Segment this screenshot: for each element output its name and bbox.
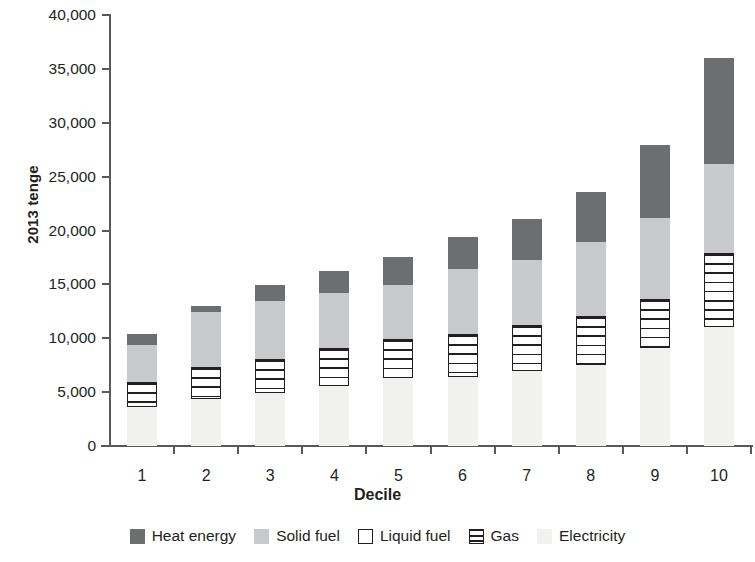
x-axis-tick: [430, 446, 432, 454]
bar-segment-gas[interactable]: [191, 367, 221, 398]
bar-column[interactable]: [319, 271, 349, 446]
x-axis-tick: [365, 446, 367, 454]
legend-item-solid-fuel[interactable]: Solid fuel: [254, 527, 340, 545]
legend-swatch-icon: [254, 529, 269, 544]
bar-segment-solid-fuel[interactable]: [383, 285, 413, 339]
bar-column[interactable]: [576, 192, 606, 446]
x-axis-tick-label: 9: [623, 467, 687, 485]
y-axis-tick: [102, 391, 110, 393]
x-axis-tick: [173, 446, 175, 454]
y-axis-tick-label: 10,000: [16, 330, 96, 346]
bar-segment-solid-fuel[interactable]: [512, 260, 542, 326]
x-axis-tick: [622, 446, 624, 454]
x-axis-tick: [301, 446, 303, 454]
bar-segment-heat-energy[interactable]: [127, 334, 157, 345]
bar-segment-electricity[interactable]: [255, 393, 285, 446]
x-axis-tick-label: 6: [431, 467, 495, 485]
bar-segment-solid-fuel[interactable]: [127, 345, 157, 383]
bar-segment-solid-fuel[interactable]: [191, 312, 221, 367]
bar-segment-electricity[interactable]: [640, 348, 670, 446]
plot-area: 05,00010,00015,00020,00025,00030,00035,0…: [110, 15, 751, 446]
x-axis-tick-label: 4: [302, 467, 366, 485]
bar-column[interactable]: [640, 145, 670, 446]
legend-item-gas[interactable]: Gas: [469, 527, 519, 545]
legend-swatch-icon: [469, 529, 484, 544]
bar-column[interactable]: [191, 306, 221, 446]
bar-column[interactable]: [255, 285, 285, 446]
y-axis-tick-label: 15,000: [16, 276, 96, 292]
gas-hatch-pattern: [512, 326, 542, 369]
y-axis-tick-label: 20,000: [16, 223, 96, 239]
x-axis-tick-label: 1: [110, 467, 174, 485]
bar-segment-solid-fuel[interactable]: [319, 293, 349, 348]
legend-label: Liquid fuel: [380, 527, 451, 545]
bar-column[interactable]: [704, 58, 734, 446]
x-axis-tick: [237, 446, 239, 454]
bar-segment-heat-energy[interactable]: [448, 237, 478, 269]
y-axis-tick: [102, 122, 110, 124]
legend-label: Electricity: [559, 527, 625, 545]
bar-segment-gas[interactable]: [319, 348, 349, 386]
y-axis-tick: [102, 337, 110, 339]
y-axis-tick-label: 35,000: [16, 61, 96, 77]
y-axis-tick-label: 25,000: [16, 169, 96, 185]
bar-segment-solid-fuel[interactable]: [255, 301, 285, 359]
bar-column[interactable]: [383, 257, 413, 446]
bar-column[interactable]: [448, 237, 478, 446]
gas-hatch-pattern: [640, 300, 670, 346]
legend-item-liquid-fuel[interactable]: Liquid fuel: [358, 527, 451, 545]
bar-segment-heat-energy[interactable]: [319, 271, 349, 293]
bar-segment-solid-fuel[interactable]: [576, 242, 606, 315]
stacked-bar-chart: 2013 tenge 05,00010,00015,00020,00025,00…: [0, 0, 755, 562]
bar-segment-electricity[interactable]: [127, 407, 157, 446]
bar-segment-heat-energy[interactable]: [383, 257, 413, 285]
bar-segment-gas[interactable]: [448, 334, 478, 377]
gas-hatch-pattern: [704, 254, 734, 326]
bar-segment-electricity[interactable]: [512, 371, 542, 446]
bar-segment-gas[interactable]: [640, 299, 670, 347]
bar-segment-gas[interactable]: [127, 382, 157, 407]
legend-label: Gas: [491, 527, 519, 545]
y-axis-tick-label: 30,000: [16, 115, 96, 131]
bar-segment-electricity[interactable]: [319, 386, 349, 446]
y-axis-tick-label: 40,000: [16, 7, 96, 23]
bar-segment-gas[interactable]: [704, 253, 734, 327]
bar-segment-heat-energy[interactable]: [512, 219, 542, 260]
bar-segment-gas[interactable]: [512, 325, 542, 370]
legend-label: Solid fuel: [276, 527, 340, 545]
x-axis-tick-label: 3: [238, 467, 302, 485]
x-axis-tick: [686, 446, 688, 454]
x-axis-tick-label: 8: [559, 467, 623, 485]
bar-segment-heat-energy[interactable]: [704, 58, 734, 164]
x-axis-tick: [750, 446, 752, 454]
bar-segment-electricity[interactable]: [576, 365, 606, 446]
bar-segment-solid-fuel[interactable]: [640, 218, 670, 300]
bar-segment-solid-fuel[interactable]: [704, 164, 734, 253]
legend-swatch-icon: [358, 529, 373, 544]
bar-segment-gas[interactable]: [255, 359, 285, 393]
legend-swatch-icon: [537, 529, 552, 544]
bar-segment-electricity[interactable]: [191, 399, 221, 446]
bar-segment-gas[interactable]: [383, 339, 413, 378]
x-axis-tick: [494, 446, 496, 454]
y-axis-tick-label: 0: [16, 438, 96, 454]
legend-item-heat-energy[interactable]: Heat energy: [130, 527, 236, 545]
bar-segment-gas[interactable]: [576, 316, 606, 366]
bar-column[interactable]: [512, 219, 542, 446]
bar-segment-electricity[interactable]: [383, 378, 413, 446]
y-axis-tick: [102, 445, 110, 447]
bar-segment-heat-energy[interactable]: [255, 285, 285, 300]
x-axis-tick-label: 10: [687, 467, 751, 485]
gas-hatch-pattern: [191, 368, 221, 397]
y-axis-tick: [102, 68, 110, 70]
bar-segment-electricity[interactable]: [448, 377, 478, 446]
bar-segment-heat-energy[interactable]: [640, 145, 670, 217]
bar-segment-heat-energy[interactable]: [576, 192, 606, 243]
gas-hatch-pattern: [576, 317, 606, 365]
bar-segment-electricity[interactable]: [704, 327, 734, 446]
bar-column[interactable]: [127, 334, 157, 446]
legend-item-electricity[interactable]: Electricity: [537, 527, 625, 545]
legend-swatch-icon: [130, 529, 145, 544]
bar-segment-solid-fuel[interactable]: [448, 269, 478, 334]
bar-segment-heat-energy[interactable]: [191, 306, 221, 312]
